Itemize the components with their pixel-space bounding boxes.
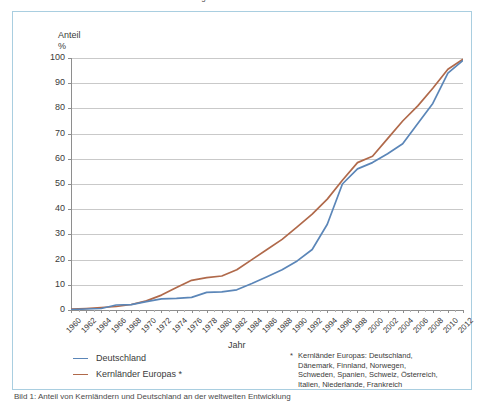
x-tick-label: 1980 <box>215 316 234 335</box>
x-tick-mark-minor <box>184 310 185 312</box>
x-tick-mark <box>312 310 313 313</box>
x-tick-mark-minor <box>154 310 155 312</box>
x-tick-label: 2004 <box>396 316 415 335</box>
x-tick-mark-minor <box>139 310 140 312</box>
y-tick-label: 50 <box>19 178 65 188</box>
x-tick-mark-minor <box>290 310 291 312</box>
figure-frame: Anteil % 0102030405060708090100 19601962… <box>12 11 472 390</box>
x-tick-mark-minor <box>199 310 200 312</box>
legend-swatch-kernlaender-europas <box>73 374 88 375</box>
y-tick-label: 30 <box>19 228 65 238</box>
footnote-line: Dänemark, Finnland, Norwegen, <box>298 361 480 371</box>
x-tick-mark-minor <box>350 310 351 312</box>
x-tick-mark-minor <box>455 310 456 312</box>
x-tick-mark <box>433 310 434 313</box>
x-tick-mark-minor <box>365 310 366 312</box>
x-tick-label: 2008 <box>426 316 445 335</box>
x-tick-mark-minor <box>305 310 306 312</box>
footnote-line: Schweden, Spanien, Schweiz, Österreich, <box>298 370 480 380</box>
x-tick-mark-minor <box>169 310 170 312</box>
y-tick-label: 60 <box>19 153 65 163</box>
bottom-caption-strip: Bild 1: Anteil von Kernländern und Deuts… <box>0 394 486 404</box>
x-tick-mark-minor <box>79 310 80 312</box>
legend-item-kernlaender-europas: Kernländer Europas * <box>73 366 182 382</box>
x-tick-label: 1960 <box>64 316 83 335</box>
legend-item-deutschland: Deutschland <box>73 350 182 366</box>
legend-label-deutschland: Deutschland <box>96 353 146 363</box>
x-tick-label: 1972 <box>155 316 174 335</box>
x-tick-mark-minor <box>320 310 321 312</box>
y-tick-label: 90 <box>19 77 65 87</box>
y-tick-label: 80 <box>19 102 65 112</box>
x-tick-label: 2006 <box>411 316 430 335</box>
x-tick-mark-minor <box>410 310 411 312</box>
series-line-kernlaender-europas <box>71 59 463 309</box>
x-tick-mark-minor <box>244 310 245 312</box>
x-tick-mark-minor <box>109 310 110 312</box>
y-axis-title-line2: % <box>58 41 81 52</box>
x-tick-mark <box>146 310 147 313</box>
legend: Deutschland Kernländer Europas * <box>73 350 182 382</box>
x-tick-mark <box>252 310 253 313</box>
x-tick-mark <box>116 310 117 313</box>
y-axis-title-line1: Anteil <box>58 30 81 41</box>
x-tick-mark <box>192 310 193 313</box>
x-tick-mark <box>357 310 358 313</box>
x-tick-mark-minor <box>94 310 95 312</box>
footnote-body: Kernländer Europas: Deutschland, Dänemar… <box>290 351 480 389</box>
x-tick-mark <box>207 310 208 313</box>
series-line-deutschland <box>71 61 463 310</box>
legend-label-kernlaender-europas: Kernländer Europas * <box>96 369 182 379</box>
top-partial-text-strip: Entwicklung <box>0 0 486 10</box>
bottom-caption-text: Bild 1: Anteil von Kernländern und Deuts… <box>14 394 291 401</box>
y-tick-label: 20 <box>19 254 65 264</box>
x-tick-label: 1974 <box>170 316 189 335</box>
x-tick-mark-minor <box>380 310 381 312</box>
x-tick-mark <box>463 310 464 313</box>
x-tick-mark <box>177 310 178 313</box>
plot-area <box>71 58 463 310</box>
x-tick-mark-minor <box>425 310 426 312</box>
x-tick-label: 2012 <box>456 316 475 335</box>
x-tick-mark-minor <box>229 310 230 312</box>
x-tick-label: 2000 <box>366 316 385 335</box>
x-tick-mark <box>403 310 404 313</box>
x-tick-mark <box>267 310 268 313</box>
x-tick-label: 1986 <box>260 316 279 335</box>
x-tick-label: 2002 <box>381 316 400 335</box>
x-tick-mark-minor <box>259 310 260 312</box>
legend-swatch-deutschland <box>73 358 88 359</box>
x-tick-mark <box>418 310 419 313</box>
x-tick-mark <box>161 310 162 313</box>
x-tick-label: 2010 <box>441 316 460 335</box>
x-tick-mark <box>388 310 389 313</box>
footnote-line: Kernländer Europas: Deutschland, <box>298 351 480 361</box>
x-tick-mark-minor <box>214 310 215 312</box>
x-tick-mark <box>297 310 298 313</box>
x-tick-label: 1982 <box>230 316 249 335</box>
y-tick-label: 70 <box>19 128 65 138</box>
x-tick-mark-minor <box>275 310 276 312</box>
x-tick-mark <box>327 310 328 313</box>
series-svg <box>71 58 463 310</box>
x-tick-label: 1984 <box>245 316 264 335</box>
footnote-line: Italien, Niederlande, Frankreich <box>298 380 480 390</box>
footnote: * Kernländer Europas: Deutschland, Dänem… <box>290 351 480 389</box>
x-tick-mark <box>86 310 87 313</box>
y-tick-label: 40 <box>19 203 65 213</box>
y-tick-label: 0 <box>19 304 65 314</box>
x-tick-mark <box>222 310 223 313</box>
x-tick-mark-minor <box>440 310 441 312</box>
x-tick-mark <box>131 310 132 313</box>
x-tick-mark <box>373 310 374 313</box>
x-tick-mark <box>342 310 343 313</box>
x-tick-mark-minor <box>124 310 125 312</box>
x-tick-label: 1976 <box>185 316 204 335</box>
y-tick-label: 100 <box>19 52 65 62</box>
x-tick-label: 1978 <box>200 316 219 335</box>
footnote-marker: * <box>290 351 293 361</box>
x-tick-mark <box>282 310 283 313</box>
y-axis-title: Anteil % <box>58 30 81 52</box>
x-tick-mark-minor <box>395 310 396 312</box>
top-partial-text: Entwicklung <box>163 0 206 2</box>
